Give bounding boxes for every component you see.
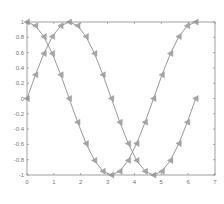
series-layer bbox=[24, 19, 198, 178]
triangle-left-marker-icon bbox=[49, 34, 54, 40]
x-tick-label: 4 bbox=[133, 179, 137, 185]
triangle-left-marker-icon bbox=[49, 51, 54, 57]
y-tick-label: 0.4 bbox=[16, 65, 25, 71]
triangle-left-marker-icon bbox=[75, 23, 80, 29]
y-tick-label: -0.2 bbox=[14, 111, 25, 117]
y-tick-label: -0.4 bbox=[14, 126, 25, 132]
x-tick-label: 6 bbox=[186, 179, 190, 185]
x-tick-label: 0 bbox=[25, 179, 29, 185]
axes: 01234567-1-0.8-0.6-0.4-0.200.20.40.60.81 bbox=[14, 19, 218, 185]
triangle-left-marker-icon bbox=[91, 157, 96, 163]
y-tick-label: -1 bbox=[19, 172, 25, 178]
triangle-left-marker-icon bbox=[134, 157, 139, 163]
triangle-left-marker-icon bbox=[91, 51, 96, 57]
triangle-left-marker-icon bbox=[134, 140, 139, 146]
y-tick-label: 0.8 bbox=[16, 34, 25, 40]
series-sin bbox=[24, 19, 198, 178]
x-tick-label: 2 bbox=[79, 179, 83, 185]
triangle-left-marker-icon bbox=[117, 168, 122, 174]
triangle-left-marker-icon bbox=[176, 34, 181, 40]
x-tick-label: 7 bbox=[213, 179, 217, 185]
plot-area-frame bbox=[27, 22, 215, 175]
y-tick-label: 0.2 bbox=[16, 80, 25, 86]
y-tick-label: -0.6 bbox=[14, 141, 25, 147]
x-tick-label: 5 bbox=[160, 179, 164, 185]
y-tick-label: -0.8 bbox=[14, 157, 25, 163]
triangle-left-marker-icon bbox=[176, 140, 181, 146]
x-tick-label: 1 bbox=[52, 179, 56, 185]
x-tick-label: 3 bbox=[106, 179, 110, 185]
triangle-left-marker-icon bbox=[32, 23, 37, 29]
line-chart: 01234567-1-0.8-0.6-0.4-0.200.20.40.60.81 bbox=[0, 0, 224, 204]
triangle-left-marker-icon bbox=[159, 168, 164, 174]
y-tick-label: 0.6 bbox=[16, 50, 25, 56]
